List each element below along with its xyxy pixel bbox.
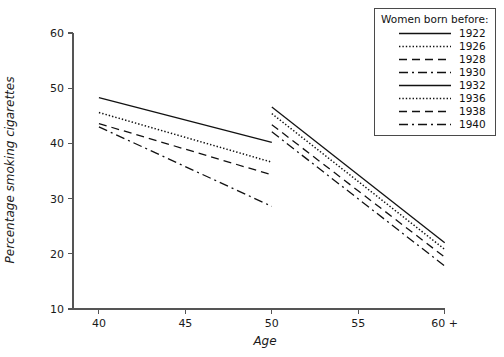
x-axis-title: Age	[252, 334, 276, 348]
x-tick-label: 45	[178, 317, 192, 330]
legend-line-swatch-icon	[397, 41, 453, 52]
legend-item-label: 1928	[459, 53, 489, 66]
y-tick-label: 20	[50, 248, 64, 261]
series-line-1930	[99, 127, 272, 206]
x-axis: 4045505560 +	[73, 309, 458, 330]
y-axis: 102030405060	[50, 27, 73, 316]
series-line-1938	[272, 125, 445, 257]
y-tick-label: 40	[50, 137, 64, 150]
legend-line-swatch-icon	[397, 93, 453, 104]
y-tick-label: 60	[50, 27, 64, 40]
legend-line-swatch-icon	[397, 119, 453, 130]
series-line-1922	[99, 98, 272, 143]
series-line-1940	[272, 132, 445, 266]
legend-item-1926[interactable]: 1926	[381, 40, 489, 53]
legend-item-label: 1926	[459, 40, 489, 53]
y-tick-label: 50	[50, 82, 64, 95]
legend-item-label: 1922	[459, 27, 489, 40]
x-tick-label: 60 +	[431, 317, 458, 330]
legend-item-1922[interactable]: 1922	[381, 27, 489, 40]
legend-item-1930[interactable]: 1930	[381, 66, 489, 79]
legend-entries: 19221926192819301932193619381940	[381, 27, 489, 131]
legend-item-label: 1936	[459, 92, 489, 105]
chart-figure: 102030405060 4045505560 + Age Percentage…	[0, 0, 504, 357]
y-tick-label: 10	[50, 303, 64, 316]
legend-title: Women born before:	[381, 13, 489, 26]
legend-line-swatch-icon	[397, 28, 453, 39]
legend-item-1936[interactable]: 1936	[381, 92, 489, 105]
legend-item-label: 1932	[459, 79, 489, 92]
legend-item-label: 1938	[459, 105, 489, 118]
legend-item-label: 1930	[459, 66, 489, 79]
x-tick-label: 50	[265, 317, 279, 330]
legend-line-swatch-icon	[397, 106, 453, 117]
legend-item-label: 1940	[459, 118, 489, 131]
legend-item-1938[interactable]: 1938	[381, 105, 489, 118]
y-tick-label: 30	[50, 193, 64, 206]
x-tick-label: 55	[351, 317, 365, 330]
legend-line-swatch-icon	[397, 67, 453, 78]
legend-item-1940[interactable]: 1940	[381, 118, 489, 131]
legend-line-swatch-icon	[397, 80, 453, 91]
legend-item-1928[interactable]: 1928	[381, 53, 489, 66]
y-axis-title: Percentage smoking cigarettes	[3, 77, 17, 264]
x-tick-label: 40	[92, 317, 106, 330]
legend: Women born before: 192219261928193019321…	[374, 8, 496, 136]
legend-line-swatch-icon	[397, 54, 453, 65]
legend-item-1932[interactable]: 1932	[381, 79, 489, 92]
